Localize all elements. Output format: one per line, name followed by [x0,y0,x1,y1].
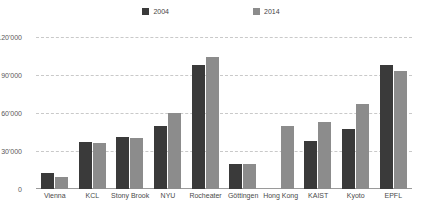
bar-group [262,37,300,189]
x-axis-label: KAIST [299,191,337,205]
bar-2004[interactable] [380,65,393,189]
bar-2004[interactable] [304,141,317,189]
bar-2004[interactable] [342,129,355,189]
bar-2014[interactable] [318,122,331,189]
bar-2014[interactable] [168,113,181,189]
bar-group [374,37,412,189]
legend-label-2004: 2004 [153,8,169,15]
bar-group [149,37,187,189]
x-axis-label: Stony Brook [111,191,149,205]
legend-label-2014: 2014 [264,8,280,15]
bar-group [186,37,224,189]
bar-2004[interactable] [154,126,167,189]
bar-2004[interactable] [41,173,54,189]
y-axis-tick-label: 60'000 [0,110,22,117]
legend-item-2014[interactable]: 2014 [253,8,280,15]
x-axis-label: KCL [74,191,112,205]
x-axis-label: EPFL [375,191,413,205]
bar-2014[interactable] [55,177,68,189]
bar-groups [36,37,412,189]
bar-2014[interactable] [394,71,407,189]
legend-item-2004[interactable]: 2004 [142,8,169,15]
bar-group [111,37,149,189]
x-axis-label: Vienna [36,191,74,205]
x-axis-label: NYU [149,191,187,205]
bar-2004[interactable] [229,164,242,189]
bar-2004[interactable] [116,137,129,189]
y-axis-tick-label: 90'000 [0,72,22,79]
bar-group [74,37,112,189]
bar-2014[interactable] [243,164,256,189]
bar-group [224,37,262,189]
legend-swatch-2004 [142,8,149,15]
x-axis-label: Göttingen [224,191,262,205]
y-axis-tick-label: 120'000 [0,34,22,41]
x-axis-label: Hong Kong [262,191,300,205]
chart-legend: 2004 2014 [0,4,422,18]
bar-2014[interactable] [356,104,369,189]
bar-group [337,37,375,189]
x-axis-labels: ViennaKCLStony BrookNYURocheaterGöttinge… [36,191,412,205]
plot-area: 030'00060'00090'000120'000 [36,37,412,189]
y-axis-tick-label: 0 [0,186,22,193]
bar-2014[interactable] [281,126,294,189]
bar-2004[interactable] [79,142,92,189]
bar-2004[interactable] [192,65,205,189]
y-axis-tick-label: 30'000 [0,148,22,155]
bar-2014[interactable] [93,143,106,189]
x-axis-label: Rocheater [187,191,225,205]
x-axis-label: Kyoto [337,191,375,205]
bar-group [36,37,74,189]
bar-chart: 2004 2014 030'00060'00090'000120'000 Vie… [0,0,422,222]
bar-2014[interactable] [130,138,143,189]
bar-group [299,37,337,189]
bar-2014[interactable] [206,57,219,189]
legend-swatch-2014 [253,8,260,15]
